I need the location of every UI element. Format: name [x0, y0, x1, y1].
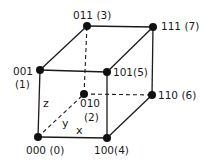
vertex-111: [149, 23, 157, 31]
edge-001-011: [40, 26, 87, 70]
edge-010-011: [84, 26, 87, 94]
axis-label-z: z: [43, 97, 49, 110]
cube-diagram: 011 (3) 111 (7) 001 (1) 101(5) 010 (2) 1…: [0, 0, 205, 166]
axis-label-x: x: [76, 124, 83, 137]
vertex-100: [103, 134, 111, 142]
edge-000-001: [38, 70, 40, 137]
label-001-code: 001: [13, 65, 33, 77]
edge-000-100: [38, 137, 107, 138]
edge-010-110: [84, 94, 152, 95]
edge-100-110: [107, 95, 152, 138]
label-010-index: (2): [84, 111, 99, 123]
edge-001-101: [40, 70, 107, 72]
label-011: 011 (3): [73, 9, 111, 21]
vertex-000: [34, 133, 42, 141]
vertex-001: [36, 66, 44, 74]
label-010-code: 010: [80, 97, 100, 109]
label-110: 110 (6): [158, 89, 196, 101]
label-111: 111 (7): [161, 20, 199, 32]
label-101: 101(5): [113, 66, 148, 78]
label-100: 100(4): [94, 144, 129, 156]
edge-111-110: [152, 27, 153, 95]
vertex-011: [83, 22, 91, 30]
label-000: 000 (0): [26, 144, 64, 156]
vertex-101: [103, 68, 111, 76]
vertex-110: [148, 91, 156, 99]
vertices: [34, 22, 157, 142]
axis-label-y: y: [62, 117, 69, 130]
label-001-index: (1): [15, 78, 30, 90]
edge-011-111: [87, 26, 153, 27]
